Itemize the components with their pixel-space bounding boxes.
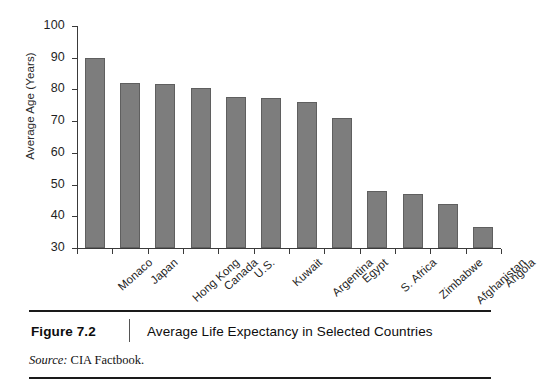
x-tick-mark (112, 249, 113, 254)
x-tick-mark (430, 249, 431, 254)
bar (473, 227, 493, 248)
y-tick-label: 90 (35, 50, 65, 64)
source-label: Source: (29, 353, 67, 367)
source-note: Source: CIA Factbook. (29, 353, 144, 368)
x-tick-label: S. Africa (399, 256, 440, 294)
y-tick-label: 80 (35, 81, 65, 95)
y-tick-label: 30 (35, 240, 65, 254)
x-tick-label: Japan (148, 256, 180, 286)
bar (438, 204, 458, 248)
x-tick-mark (183, 249, 184, 254)
x-tick-mark (254, 249, 255, 254)
y-tick-label: 40 (35, 208, 65, 222)
y-axis-line (77, 26, 78, 249)
figure-title: Average Life Expectancy in Selected Coun… (147, 324, 433, 339)
caption-top-rule (29, 310, 491, 312)
x-tick-mark (148, 249, 149, 254)
x-tick-mark (77, 249, 78, 254)
y-tick-label: 100 (35, 18, 65, 32)
x-tick-mark (218, 249, 219, 254)
x-tick-label: Kuwait (290, 256, 324, 288)
bar (226, 97, 246, 248)
x-tick-mark (466, 249, 467, 254)
x-tick-mark (395, 249, 396, 254)
bar (332, 118, 352, 248)
bar-chart: Average Age (Years) 30405060708090100 Mo… (0, 0, 519, 305)
y-axis-title: Average Age (Years) (24, 16, 36, 196)
bar (85, 58, 105, 248)
bar (191, 88, 211, 248)
bar (403, 194, 423, 248)
caption-block: Figure 7.2 Average Life Expectancy in Se… (0, 305, 519, 388)
x-tick-mark (360, 249, 361, 254)
caption-divider (129, 319, 130, 342)
bar (367, 191, 387, 248)
figure-number: Figure 7.2 (31, 324, 96, 339)
source-text: CIA Factbook. (71, 353, 145, 367)
x-tick-mark (501, 249, 502, 254)
x-tick-mark (289, 249, 290, 254)
bar (261, 98, 281, 248)
bar (297, 102, 317, 248)
bar (120, 83, 140, 248)
y-tick-label: 50 (35, 177, 65, 191)
x-tick-label: Monaco (115, 256, 154, 293)
y-tick-label: 60 (35, 145, 65, 159)
x-tick-mark (324, 249, 325, 254)
caption-bottom-rule (29, 377, 491, 379)
bar (155, 84, 175, 248)
y-tick-label: 70 (35, 113, 65, 127)
